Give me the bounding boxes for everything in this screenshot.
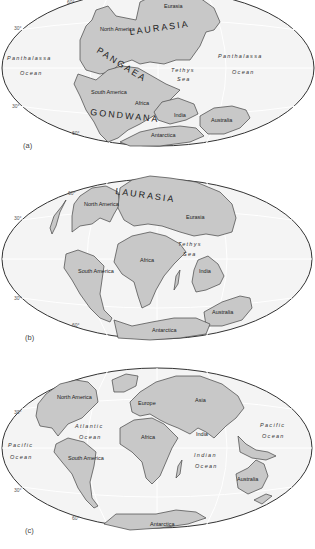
lat-label: 30° (14, 409, 22, 415)
ocean-label: Ocean (262, 433, 285, 439)
panel-label-a: (a) (23, 141, 33, 150)
continent-label: India (174, 112, 187, 118)
continent-label: Australia (211, 117, 233, 123)
ocean-label: Ocean (232, 69, 255, 75)
continent-label: Africa (135, 100, 150, 106)
sea-label: Sea (177, 76, 191, 82)
continent-label: North America (57, 394, 93, 400)
ocean-label: Ocean (195, 463, 218, 469)
ocean-label: Ocean (79, 434, 102, 440)
continent-label: Africa (140, 257, 155, 263)
continental-drift-figure: 60° 30° 30° 60° LAURASIA PANGAEA GONDWAN… (0, 0, 315, 549)
continent-label: Europe (138, 400, 156, 406)
ocean-label: Indian (194, 452, 217, 458)
panel-label-b: (b) (25, 333, 35, 342)
ocean-label: Ocean (20, 70, 43, 76)
ocean-label: Ocean (10, 454, 33, 460)
continent-label: Antarctica (150, 521, 175, 527)
lat-label: 30° (14, 295, 22, 301)
panel-a-pangaea: 60° 30° 30° 60° LAURASIA PANGAEA GONDWAN… (2, 0, 314, 150)
continent-label: Antarctica (152, 327, 177, 333)
ocean-label: Pacific (260, 422, 285, 428)
continent-label: Asia (195, 397, 207, 403)
lat-label: 60° (68, 190, 76, 196)
continent-label: North America (84, 201, 120, 207)
continent-label: South America (68, 455, 105, 461)
sea-label: Sea (183, 251, 197, 257)
lat-label: 60° (72, 322, 80, 328)
lat-label: 30° (14, 25, 22, 31)
ocean-label: Panthalassa (218, 53, 263, 59)
continent-label: Australia (237, 476, 259, 482)
lat-label: 60° (72, 515, 80, 521)
lat-label: 60° (67, 0, 75, 5)
continent-label: Eurasia (164, 3, 184, 9)
lat-label: 60° (72, 130, 80, 136)
panel-label-c: (c) (25, 526, 34, 535)
continent-label: India (196, 431, 209, 437)
lat-label: 30° (12, 103, 20, 109)
panel-b-breakup: 60° 30° 30° 60° LAURASIA North America E… (2, 176, 312, 342)
continent-label: Africa (141, 434, 156, 440)
continent-label: Eurasia (186, 214, 206, 220)
lat-label: 30° (14, 215, 22, 221)
continent-label: Australia (212, 309, 234, 315)
sea-label: Tethys (178, 241, 202, 247)
ocean-label: Atlantic (74, 423, 103, 429)
sea-label: Tethys (171, 67, 195, 73)
continent-label: South America (78, 268, 115, 274)
continent-label: North America (100, 26, 136, 32)
continent-label: Antarctica (151, 132, 176, 138)
continent-label: India (199, 268, 212, 274)
ocean-label: Panthalassa (7, 55, 52, 61)
ocean-label: Pacific (8, 442, 33, 448)
continent-label: South America (91, 89, 128, 95)
lat-label: 30° (14, 487, 22, 493)
panel-c-present-day: 30° 30° 60° North America Europe Asia Af… (2, 368, 312, 535)
